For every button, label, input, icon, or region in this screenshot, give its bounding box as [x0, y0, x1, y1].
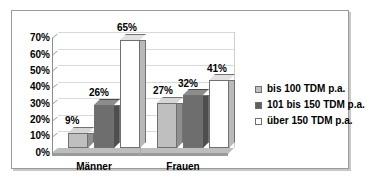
bar-frauen-ueber-150[interactable]: [209, 80, 229, 148]
legend-swatch-icon: [255, 86, 262, 93]
value-axis-labels: 70% 60% 50% 40% 30% 20% 10% 0%: [12, 32, 50, 154]
category-separator-tick: [140, 148, 141, 155]
gridline-60: [58, 49, 234, 50]
bar-frauen-bis-100[interactable]: [157, 103, 177, 148]
legend-item-101-bis-150[interactable]: 101 bis 150 TDM p.a.: [255, 97, 365, 113]
gridline-40: [58, 82, 234, 83]
legend-label: 101 bis 150 TDM p.a.: [267, 100, 365, 110]
data-label-maenner-ueber-150: 65%: [117, 23, 137, 33]
data-label-frauen-bis-100: 27%: [153, 86, 173, 96]
legend-label: bis 100 TDM p.a.: [267, 84, 345, 94]
bar-maenner-ueber-150[interactable]: [120, 40, 140, 148]
bar-maenner-bis-100[interactable]: [68, 133, 88, 148]
legend-swatch-icon: [255, 118, 262, 125]
bar-maenner-101-bis-150[interactable]: [94, 105, 114, 148]
bar-face: [94, 105, 114, 148]
y-tick-label-10: 10%: [16, 131, 50, 141]
plot-area: 9% 26% 65% 27% 32% 41%: [52, 32, 234, 154]
data-label-maenner-101-bis-150: 26%: [89, 88, 109, 98]
bar-face: [120, 40, 140, 148]
category-label-frauen: Frauen: [153, 161, 213, 172]
data-label-frauen-ueber-150: 41%: [207, 64, 227, 74]
y-tick-label-0: 0%: [16, 148, 50, 158]
bar-side: [140, 40, 146, 148]
legend-item-bis-100[interactable]: bis 100 TDM p.a.: [255, 81, 365, 97]
value-axis-line: [52, 38, 53, 154]
legend-item-ueber-150[interactable]: über 150 TDM p.a.: [255, 113, 365, 129]
y-tick-label-60: 60%: [16, 50, 50, 60]
bar-frauen-101-bis-150[interactable]: [183, 95, 203, 148]
legend-label: über 150 TDM p.a.: [267, 116, 353, 126]
y-tick-label-70: 70%: [16, 33, 50, 43]
y-tick-label-20: 20%: [16, 115, 50, 125]
bar-face: [68, 133, 88, 148]
bar-face: [183, 95, 203, 148]
chart-container: 70% 60% 50% 40% 30% 20% 10% 0%: [11, 10, 349, 169]
bar-face: [209, 80, 229, 148]
y-tick-label-30: 30%: [16, 99, 50, 109]
data-label-maenner-bis-100: 9%: [65, 116, 79, 126]
data-label-frauen-101-bis-150: 32%: [178, 79, 198, 89]
y-tick-label-50: 50%: [16, 66, 50, 76]
category-label-maenner: Männer: [64, 161, 124, 172]
chart-legend: bis 100 TDM p.a. 101 bis 150 TDM p.a. üb…: [255, 81, 365, 129]
gridline-70: [58, 32, 234, 33]
bar-side: [229, 80, 235, 148]
legend-swatch-icon: [255, 102, 262, 109]
y-tick-label-40: 40%: [16, 82, 50, 92]
bar-face: [157, 103, 177, 148]
